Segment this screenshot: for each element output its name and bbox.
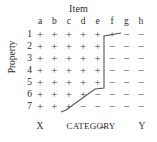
cell-6h: − [134, 88, 148, 100]
cell-5h: − [134, 76, 148, 88]
cell-2a: + [33, 40, 47, 52]
cell-6f: − [105, 88, 119, 100]
row-label-6: 6 [18, 88, 32, 100]
cell-1g: − [119, 28, 133, 40]
category-label: CATEGORY [49, 121, 133, 131]
column-header-f: f [105, 16, 119, 26]
cell-4e: + [91, 64, 105, 76]
cell-6b: + [47, 88, 61, 100]
cell-4a: + [33, 64, 47, 76]
cell-7b: + [47, 100, 61, 112]
cell-2b: + [47, 40, 61, 52]
cell-5a: + [33, 76, 47, 88]
row-label-3: 3 [18, 52, 32, 64]
column-header-d: d [76, 16, 90, 26]
cell-4g: − [119, 64, 133, 76]
column-header-h: h [134, 16, 148, 26]
cell-6g: − [119, 88, 133, 100]
cell-4h: − [134, 64, 148, 76]
cell-4b: + [47, 64, 61, 76]
category-right-endpoint: Y [135, 121, 149, 131]
row-label-1: 1 [18, 28, 32, 40]
matrix-cells: ++++++−−+++++−−−+++++−−−+++++−−−+++++−−−… [33, 28, 149, 112]
cell-1a: + [33, 28, 47, 40]
cell-4d: + [76, 64, 90, 76]
cell-3e: + [91, 52, 105, 64]
cell-3b: + [47, 52, 61, 64]
cell-7h: − [134, 100, 148, 112]
row-label-7: 7 [18, 100, 32, 112]
cell-6e: − [91, 88, 105, 100]
cell-3c: + [62, 52, 76, 64]
cell-3h: − [134, 52, 148, 64]
cell-3a: + [33, 52, 47, 64]
cell-7c: + [62, 100, 76, 112]
column-header-g: g [119, 16, 133, 26]
row-label-4: 4 [18, 64, 32, 76]
row-label-2: 2 [18, 40, 32, 52]
cell-1d: + [76, 28, 90, 40]
cell-2f: − [105, 40, 119, 52]
cell-3g: − [119, 52, 133, 64]
row-label-column: 1234567 [18, 28, 32, 112]
cell-7e: − [91, 100, 105, 112]
cell-3f: − [105, 52, 119, 64]
item-axis-title: Item [0, 3, 157, 14]
cell-2c: + [62, 40, 76, 52]
cell-5b: + [47, 76, 61, 88]
cell-1c: + [62, 28, 76, 40]
cell-7g: − [119, 100, 133, 112]
cell-6d: + [76, 88, 90, 100]
cell-5e: + [91, 76, 105, 88]
column-header-a: a [33, 16, 47, 26]
property-axis-title: Property [7, 27, 17, 87]
cell-5d: + [76, 76, 90, 88]
category-axis: X ← CATEGORY → Y [0, 121, 157, 135]
cell-1h: − [134, 28, 148, 40]
cell-5g: − [119, 76, 133, 88]
cell-6a: + [33, 88, 47, 100]
column-header-c: c [62, 16, 76, 26]
cell-4f: − [105, 64, 119, 76]
cell-1b: + [47, 28, 61, 40]
cell-7a: + [33, 100, 47, 112]
cell-2h: − [134, 40, 148, 52]
row-label-5: 5 [18, 76, 32, 88]
category-left-endpoint: X [33, 121, 47, 131]
cell-2e: + [91, 40, 105, 52]
cell-1f: + [105, 28, 119, 40]
cell-4c: + [62, 64, 76, 76]
column-header-e: e [91, 16, 105, 26]
cell-2d: + [76, 40, 90, 52]
cell-7d: − [76, 100, 90, 112]
cell-2g: − [119, 40, 133, 52]
cell-5f: − [105, 76, 119, 88]
scalogram-figure: Item Property abcdefgh 1234567 ++++++−−+… [0, 0, 157, 142]
cell-1e: + [91, 28, 105, 40]
cell-3d: + [76, 52, 90, 64]
cell-7f: − [105, 100, 119, 112]
cell-5c: + [62, 76, 76, 88]
column-header-b: b [47, 16, 61, 26]
cell-6c: + [62, 88, 76, 100]
column-header-row: abcdefgh [33, 16, 149, 28]
